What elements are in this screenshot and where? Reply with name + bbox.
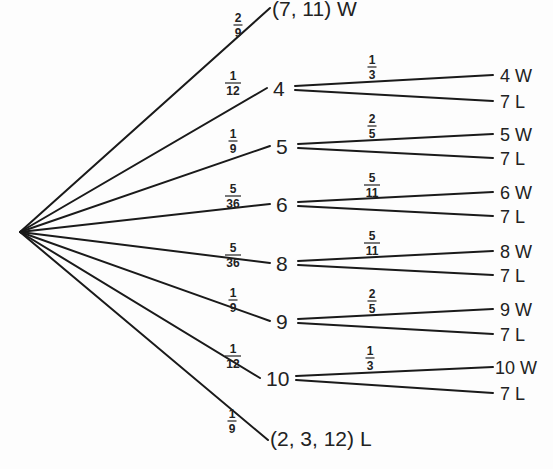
prob-point-6: 536: [225, 182, 241, 211]
fraction-numerator: 1: [229, 407, 236, 421]
fraction-denominator: 5: [369, 127, 376, 141]
fraction-numerator: 1: [230, 127, 237, 141]
point-node-5: 5: [276, 135, 288, 158]
prob-craps: 19: [228, 407, 237, 436]
fraction-denominator: 36: [226, 197, 240, 211]
outcome-lose-5: 7 L: [500, 149, 525, 169]
fraction-denominator: 11: [366, 244, 379, 258]
fraction-denominator: 9: [235, 26, 242, 40]
fraction-denominator: 11: [366, 186, 379, 200]
outcome-win-8: 8 W: [500, 242, 532, 262]
branch-lose-9: [298, 323, 493, 334]
outcome-lose-6: 7 L: [500, 207, 525, 227]
probability-tree: (7, 11) W29(2, 3, 12) L194112134 W7 L519…: [0, 0, 553, 469]
fraction-denominator: 9: [230, 301, 237, 315]
fraction-numerator: 5: [230, 182, 237, 196]
fraction-numerator: 2: [369, 112, 376, 126]
subprob-point-8: 511: [364, 229, 380, 258]
outcome-win-10: 10 W: [495, 358, 537, 378]
outcome-win-4: 4 W: [500, 66, 532, 86]
branch-win-10: [296, 367, 493, 376]
fraction-numerator: 5: [369, 229, 376, 243]
outcome-craps: (2, 3, 12) L: [270, 427, 372, 450]
subprob-point-10: 13: [366, 344, 375, 373]
fraction-numerator: 2: [235, 11, 242, 25]
branch-win-8: [298, 251, 493, 261]
fraction-denominator: 36: [226, 256, 240, 270]
prob-point-9: 19: [229, 286, 238, 315]
outcome-lose-8: 7 L: [500, 266, 525, 286]
branch-lose-10: [296, 380, 493, 393]
branch-win-5: [298, 134, 493, 144]
fraction-numerator: 1: [230, 342, 237, 356]
fraction-numerator: 1: [230, 69, 237, 83]
fraction-numerator: 5: [369, 171, 376, 185]
fraction-denominator: 9: [230, 142, 237, 156]
subprob-point-4: 13: [368, 53, 377, 82]
prob-natural: 29: [234, 11, 243, 40]
branch-lose-5: [298, 148, 493, 158]
point-node-8: 8: [276, 252, 288, 275]
outcome-lose-10: 7 L: [500, 384, 525, 404]
tree-edges: [20, 8, 493, 440]
subprob-point-9: 25: [368, 287, 377, 316]
fraction-denominator: 12: [226, 357, 240, 371]
prob-point-8: 536: [225, 241, 241, 270]
fraction-denominator: 9: [229, 422, 236, 436]
prob-point-4: 112: [225, 69, 241, 98]
fraction-numerator: 1: [230, 286, 237, 300]
fraction-denominator: 3: [367, 359, 374, 373]
fraction-numerator: 1: [369, 53, 376, 67]
branch-win-6: [298, 192, 493, 202]
fraction-numerator: 1: [367, 344, 374, 358]
subprob-point-5: 25: [368, 112, 377, 141]
branch-lose-8: [298, 265, 493, 275]
outcome-lose-9: 7 L: [500, 325, 525, 345]
outcome-win-5: 5 W: [500, 125, 532, 145]
fraction-numerator: 5: [230, 241, 237, 255]
prob-point-10: 112: [225, 342, 241, 371]
fraction-denominator: 3: [369, 68, 376, 82]
branch-win-9: [298, 309, 493, 319]
outcome-win-9: 9 W: [500, 300, 532, 320]
branch-lose-4: [295, 90, 493, 101]
point-node-4: 4: [273, 77, 285, 100]
outcome-lose-4: 7 L: [500, 92, 525, 112]
fraction-denominator: 5: [369, 302, 376, 316]
prob-point-5: 19: [229, 127, 238, 156]
subprob-point-6: 511: [364, 171, 380, 200]
tree-labels: (7, 11) W29(2, 3, 12) L194112134 W7 L519…: [225, 0, 537, 450]
fraction-numerator: 2: [369, 287, 376, 301]
branch-lose-6: [298, 206, 493, 216]
outcome-natural: (7, 11) W: [272, 0, 357, 20]
fraction-denominator: 12: [226, 84, 240, 98]
point-node-6: 6: [276, 193, 288, 216]
outcome-win-6: 6 W: [500, 183, 532, 203]
point-node-9: 9: [276, 310, 288, 333]
branch-win-4: [295, 75, 493, 86]
point-node-10: 10: [266, 367, 289, 390]
